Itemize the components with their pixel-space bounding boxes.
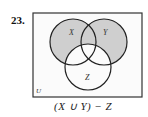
- set-expression: (X ∪ Y) − Z: [0, 100, 148, 113]
- set-z-label: Z: [85, 73, 90, 82]
